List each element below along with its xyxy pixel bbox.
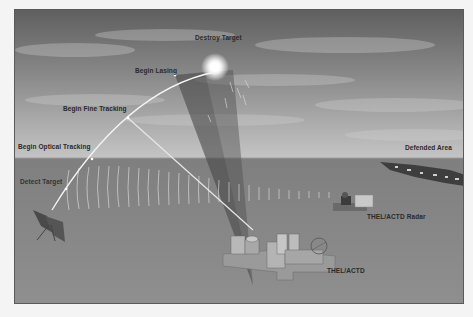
diagram-frame: Destroy Target Begin Lasing Begin Fine T…	[14, 9, 464, 304]
label-begin-lasing: Begin Lasing	[135, 67, 177, 74]
label-thel-actd: THEL/ACTD	[327, 267, 365, 274]
label-begin-fine-tracking: Begin Fine Tracking	[63, 105, 127, 112]
label-defended-area: Defended Area	[405, 144, 452, 151]
label-thel-actd-radar: THEL/ACTD Radar	[367, 213, 426, 220]
label-begin-optical-tracking: Begin Optical Tracking	[18, 143, 91, 150]
label-destroy-target: Destroy Target	[195, 34, 242, 41]
engagement-scene	[15, 10, 464, 304]
label-detect-target: Detect Target	[20, 178, 62, 185]
